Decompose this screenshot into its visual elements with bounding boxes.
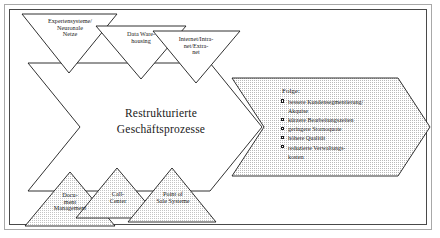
result-list-item: bessere Kundensegmentierung/ — [281, 98, 411, 107]
checkbox-icon — [281, 127, 284, 130]
result-item-text: bessere Kundensegmentierung/ — [288, 99, 363, 105]
checkbox-icon — [281, 145, 284, 148]
result-list-item: reduzierte Verwaltungs- — [281, 144, 411, 153]
result-list-item: höhere Qualität — [281, 134, 411, 143]
result-item-text-cont: kosten — [281, 153, 411, 162]
result-item-text-cont: Akquise — [281, 107, 411, 116]
result-item-list: bessere Kundensegmentierung/ Akquise kür… — [281, 98, 411, 162]
result-list-item: geringere Stornoquote — [281, 125, 411, 134]
checkbox-icon — [281, 118, 284, 121]
checkbox-icon — [281, 99, 284, 102]
center-process-arrow — [28, 63, 262, 191]
result-list-item: kürzere Bearbeitungszeiten — [281, 116, 411, 125]
result-item-text: geringere Stornoquote — [288, 126, 341, 132]
result-item-text: kürzere Bearbeitungszeiten — [288, 117, 353, 123]
diagram-canvas: Expertensysteme/ Neuronale Netze Data Wa… — [0, 0, 440, 238]
checkbox-icon — [281, 136, 284, 139]
result-item-text: reduzierte Verwaltungs- — [288, 145, 345, 151]
result-item-text: höhere Qualität — [288, 135, 325, 141]
